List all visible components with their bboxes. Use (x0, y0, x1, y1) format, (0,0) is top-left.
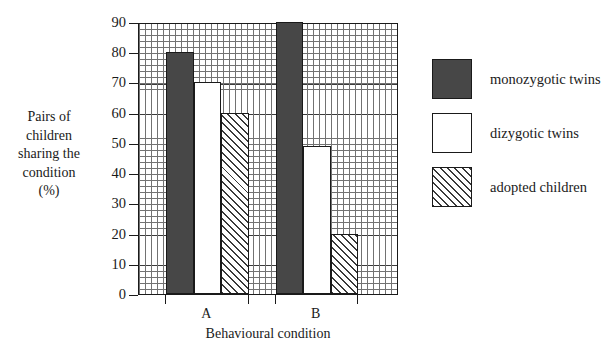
x-axis-tick (275, 295, 276, 304)
bar-group-container (139, 23, 398, 294)
y-axis-tick-label: 10 (92, 257, 126, 272)
legend-label: dizygotic twins (490, 125, 579, 142)
y-axis-tick (129, 235, 138, 236)
legend-label: adopted children (490, 179, 587, 196)
y-axis-tick (129, 204, 138, 205)
y-axis-tick (129, 295, 138, 296)
y-axis-tick-label: 80 (92, 45, 126, 60)
legend-item: monozygotic twins (432, 52, 610, 106)
y-axis-tick (129, 83, 138, 84)
y-axis-tick-label: 50 (92, 136, 126, 151)
y-axis-tick (129, 265, 138, 266)
y-axis-title-line: children (10, 127, 88, 146)
bar (221, 113, 249, 294)
legend-item: adopted children (432, 160, 610, 214)
y-axis-tick-label: 90 (92, 15, 126, 30)
x-axis-tick (357, 295, 358, 304)
x-axis-tick (248, 295, 249, 304)
bar (303, 146, 331, 294)
bar (331, 234, 359, 294)
y-axis-title-line: sharing the (10, 145, 88, 164)
legend-swatch (432, 167, 472, 207)
y-axis-title: Pairs ofchildrensharing thecondition(%) (10, 108, 88, 201)
bar (276, 22, 304, 294)
y-axis-title-line: condition (10, 164, 88, 183)
y-axis-tick-label: 30 (92, 196, 126, 211)
y-axis-tick (129, 53, 138, 54)
y-axis-title-line: (%) (10, 182, 88, 201)
legend-swatch (432, 59, 472, 99)
y-axis-title-line: Pairs of (10, 108, 88, 127)
x-axis-title: Behavioural condition (138, 326, 398, 342)
legend: monozygotic twinsdizygotic twinsadopted … (432, 52, 610, 214)
y-axis-tick (129, 144, 138, 145)
x-axis-tick (165, 295, 166, 304)
y-axis-tick-labels: 0102030405060708090 (86, 0, 126, 354)
y-axis-tick-label: 20 (92, 227, 126, 242)
bar-chart: 0102030405060708090 Pairs ofchildrenshar… (0, 0, 614, 354)
y-axis-tick (129, 114, 138, 115)
legend-swatch (432, 113, 472, 153)
y-axis-tick (129, 174, 138, 175)
bar (194, 82, 222, 294)
y-axis-tick-label: 70 (92, 75, 126, 90)
y-axis-tick-label: 0 (92, 287, 126, 302)
plot-area (138, 23, 398, 295)
y-axis-tick-label: 60 (92, 106, 126, 121)
legend-item: dizygotic twins (432, 106, 610, 160)
bar (166, 52, 194, 294)
x-axis-category-label: A (186, 306, 226, 322)
x-axis-category-label: B (296, 306, 336, 322)
y-axis-tick-label: 40 (92, 166, 126, 181)
legend-label: monozygotic twins (490, 71, 601, 88)
y-axis-tick (129, 23, 138, 24)
